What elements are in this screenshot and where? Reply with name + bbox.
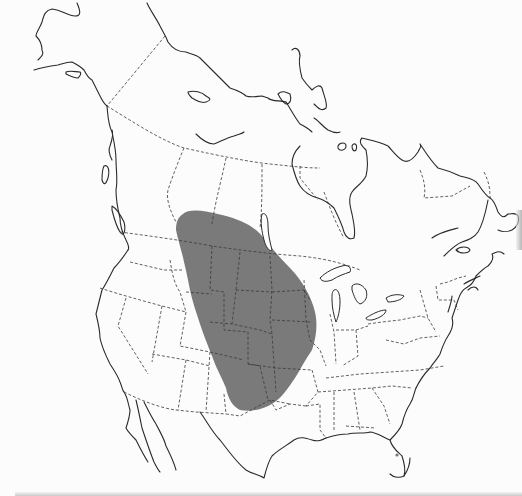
hudson-bay-coast — [286, 102, 490, 239]
species-range-area — [176, 211, 316, 411]
gulf-coast-us — [326, 432, 405, 477]
page-edge-shadow — [516, 210, 522, 250]
range-map — [0, 0, 522, 496]
arctic-islands-north — [278, 48, 327, 109]
new-england-coast — [448, 276, 480, 312]
coastal-islands — [102, 130, 125, 234]
north-america-map — [0, 0, 522, 496]
hudson-bay-islands — [338, 143, 357, 151]
arctic-coastline — [147, 3, 286, 102]
great-slave-lake — [196, 132, 244, 144]
florida-marker — [395, 453, 398, 456]
lake-michigan — [332, 290, 340, 322]
florida-peninsula — [390, 388, 416, 476]
alaska-peninsula — [66, 71, 81, 78]
page-bottom-shadow — [15, 492, 522, 496]
lake-huron — [352, 284, 367, 304]
baja-california — [136, 400, 176, 472]
lake-erie — [366, 310, 386, 320]
mexico-gulf-coast — [200, 412, 326, 478]
lake-superior — [320, 265, 351, 281]
arctic-island — [188, 91, 210, 102]
lake-ontario — [386, 295, 404, 302]
labrador-newfoundland — [444, 198, 519, 256]
alaska-coastline — [34, 3, 107, 106]
pacific-coast-us — [96, 250, 148, 462]
